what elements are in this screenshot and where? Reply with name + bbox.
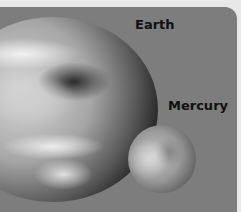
- mercury-label: Mercury: [168, 98, 228, 113]
- earth-label: Earth: [135, 17, 175, 32]
- mercury-planet-image: [128, 125, 196, 193]
